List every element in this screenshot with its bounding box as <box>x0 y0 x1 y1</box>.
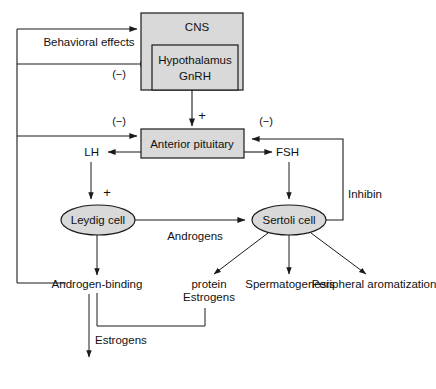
node-hypothalamus-label-line1: Hypothalamus <box>158 54 232 66</box>
label-peripheral-aromatization: Estrogens <box>95 334 147 346</box>
edge-sertoli-to-spermatogenesis <box>311 233 366 274</box>
sign-plus-pituitary: + <box>198 108 206 123</box>
label-inhibin: Inhibin <box>348 188 382 200</box>
node-leydig-cell-label: Leydig cell <box>71 214 125 226</box>
sign-plus-leydig: + <box>103 185 111 200</box>
node-sertoli-cell-label: Sertoli cell <box>262 214 315 226</box>
endocrine-axis-diagram: CNS Hypothalamus GnRH Anterior pituitary… <box>0 0 436 389</box>
label-spermatogenesis: Peripheral aromatization <box>312 278 436 290</box>
node-hypothalamus-label-line2: GnRH <box>179 70 211 82</box>
label-androgens-transfer: Androgens <box>167 230 223 242</box>
label-androgen-binding-protein-line1: protein <box>191 278 226 290</box>
diagram-canvas: CNS Hypothalamus GnRH Anterior pituitary… <box>0 0 436 389</box>
sign-minus-pituitary-right: (−) <box>259 115 273 127</box>
node-hypothalamus[interactable] <box>152 45 238 90</box>
sign-minus-hypothalamus: (−) <box>112 68 126 80</box>
left-feedback-trunk <box>17 29 148 283</box>
node-cns-label: CNS <box>185 21 210 33</box>
label-androgens-bottom: Androgen-binding <box>52 278 143 290</box>
label-behavioral-effects: Behavioral effects <box>43 36 134 48</box>
label-androgen-binding-protein-line2: Estrogens <box>183 291 235 303</box>
label-fsh: FSH <box>276 146 299 158</box>
label-lh: LH <box>84 146 99 158</box>
node-anterior-pituitary-label: Anterior pituitary <box>150 138 234 150</box>
sign-minus-pituitary-left: (−) <box>112 115 126 127</box>
